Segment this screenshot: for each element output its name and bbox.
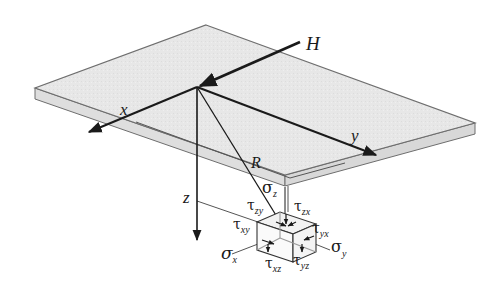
tau-zy-label: τzy	[247, 197, 264, 216]
half-space-diagram: H x y z R σz τzy τzx	[0, 0, 502, 283]
sigma-x-label: σx	[221, 243, 238, 265]
sigma-y-label: σy	[331, 237, 347, 259]
z-axis-label: z	[182, 188, 190, 207]
force-h-label: H	[305, 33, 321, 54]
tau-xz-label: τxz	[265, 255, 281, 274]
tau-zx-label: τzx	[294, 198, 311, 217]
distance-r-label: R	[250, 154, 261, 171]
y-axis-label: y	[349, 126, 359, 145]
x-axis-label: x	[119, 100, 128, 119]
